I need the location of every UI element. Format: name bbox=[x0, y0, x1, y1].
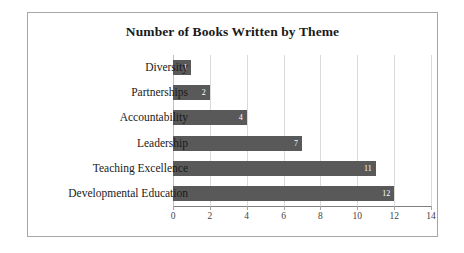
gridline-14 bbox=[431, 55, 432, 206]
tick-mark-4 bbox=[247, 206, 248, 210]
tick-mark-6 bbox=[284, 206, 285, 210]
tick-mark-12 bbox=[394, 206, 395, 210]
bar-value-teaching-excellence: 11 bbox=[173, 161, 376, 176]
plot-area: 1 2 4 7 11 12 bbox=[173, 55, 431, 206]
category-label-leadership: Leadership bbox=[28, 131, 188, 156]
xtick-label-2: 2 bbox=[195, 211, 225, 221]
bar-row: 1 bbox=[173, 55, 431, 80]
tick-mark-2 bbox=[210, 206, 211, 210]
tick-mark-8 bbox=[320, 206, 321, 210]
chart-title: Number of Books Written by Theme bbox=[28, 24, 437, 40]
category-label-partnerships: Partnerships bbox=[28, 80, 188, 105]
xtick-label-10: 10 bbox=[342, 211, 372, 221]
bar-row: 12 bbox=[173, 181, 431, 206]
bar-value-developmental-education: 12 bbox=[173, 186, 394, 201]
xtick-label-0: 0 bbox=[158, 211, 188, 221]
tick-mark-10 bbox=[357, 206, 358, 210]
bar-row: 4 bbox=[173, 105, 431, 130]
bar-value-leadership: 7 bbox=[173, 136, 302, 151]
xtick-label-8: 8 bbox=[305, 211, 335, 221]
category-label-diversity: Diversity bbox=[28, 55, 188, 80]
category-label-developmental-education: Developmental Education bbox=[28, 181, 188, 206]
bar-row: 7 bbox=[173, 131, 431, 156]
chart-frame: Number of Books Written by Theme 1 2 4 bbox=[27, 12, 438, 237]
bar-row: 11 bbox=[173, 156, 431, 181]
category-label-teaching-excellence: Teaching Excellence bbox=[28, 156, 188, 181]
xtick-label-14: 14 bbox=[416, 211, 446, 221]
xtick-label-4: 4 bbox=[232, 211, 262, 221]
tick-mark-14 bbox=[431, 206, 432, 210]
category-label-accountability: Accountability bbox=[28, 105, 188, 130]
xtick-label-12: 12 bbox=[379, 211, 409, 221]
tick-mark-0 bbox=[173, 206, 174, 210]
bar-row: 2 bbox=[173, 80, 431, 105]
xtick-label-6: 6 bbox=[269, 211, 299, 221]
